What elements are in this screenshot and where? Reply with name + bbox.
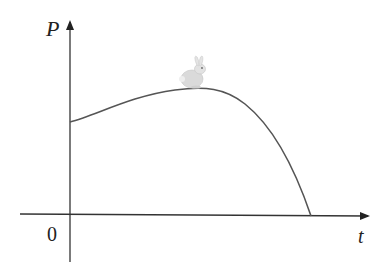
- rabbit-icon: [179, 56, 206, 89]
- y-axis-label: P: [45, 16, 59, 41]
- population-graph: P t 0: [0, 0, 389, 275]
- x-axis-label: t: [358, 225, 364, 247]
- population-curve: [70, 88, 311, 216]
- x-axis: [20, 214, 368, 216]
- origin-label: 0: [47, 223, 57, 245]
